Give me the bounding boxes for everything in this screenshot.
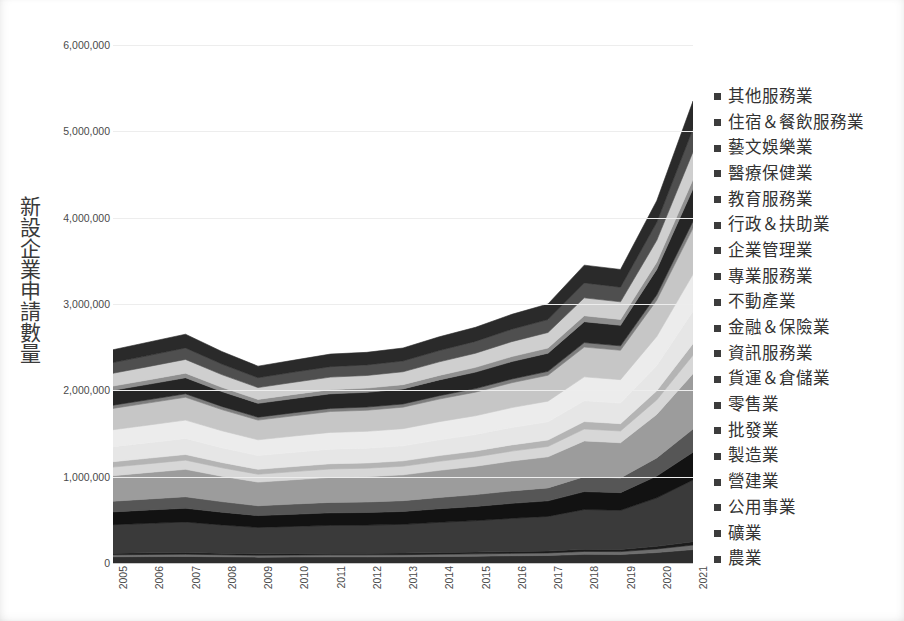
legend-swatch-icon [714, 222, 721, 229]
y-tick-label: 0 [104, 557, 110, 569]
legend-item-label: 零售業 [728, 396, 779, 414]
legend-item-label: 行政＆扶助業 [728, 216, 830, 234]
legend-item-label: 教育服務業 [728, 191, 813, 209]
legend-item[interactable]: 企業管理業 [714, 238, 899, 264]
x-axis-tick-labels: 2005200620072008200920102011201220132014… [113, 566, 693, 616]
x-tick-label: 2007 [190, 566, 202, 589]
legend-swatch-icon [714, 145, 721, 152]
legend-item-label: 醫療保健業 [728, 165, 813, 183]
x-tick-label: 2014 [443, 566, 455, 589]
legend-item[interactable]: 專業服務業 [714, 264, 899, 290]
gridline [113, 218, 693, 219]
legend-item-label: 專業服務業 [728, 268, 813, 286]
gridline [113, 477, 693, 478]
legend-swatch-icon [714, 273, 721, 280]
y-tick-label: 2,000,000 [63, 384, 110, 396]
legend-item[interactable]: 批發業 [714, 418, 899, 444]
x-tick-label: 2018 [588, 566, 600, 589]
y-axis-title: 新設企業申請數量 [6, 196, 40, 364]
legend-item-label: 營建業 [728, 473, 779, 491]
legend-item[interactable]: 不動產業 [714, 290, 899, 316]
x-tick-label: 2011 [335, 566, 347, 589]
legend-item[interactable]: 營建業 [714, 469, 899, 495]
stacked-area-chart: 新設企業申請數量 01,000,0002,000,0003,000,0004,0… [0, 0, 904, 621]
legend-item[interactable]: 礦業 [714, 521, 899, 547]
x-tick-label: 2012 [371, 566, 383, 589]
legend-swatch-icon [714, 196, 721, 203]
legend-item-label: 公用事業 [728, 499, 796, 517]
legend-item-label: 礦業 [728, 525, 762, 543]
x-tick-label: 2017 [552, 566, 564, 589]
legend-swatch-icon [714, 350, 721, 357]
legend-item[interactable]: 行政＆扶助業 [714, 212, 899, 238]
legend-item[interactable]: 公用事業 [714, 495, 899, 521]
legend-item[interactable]: 教育服務業 [714, 187, 899, 213]
gridline [113, 304, 693, 305]
legend-swatch-icon [714, 376, 721, 383]
y-tick-label: 5,000,000 [63, 125, 110, 137]
x-tick-label: 2006 [153, 566, 165, 589]
legend-item[interactable]: 藝文娛樂業 [714, 135, 899, 161]
legend-swatch-icon [714, 504, 721, 511]
legend-swatch-icon [714, 427, 721, 434]
legend-swatch-icon [714, 556, 721, 563]
legend-item[interactable]: 製造業 [714, 444, 899, 470]
gridline [113, 563, 693, 564]
legend-item-label: 貨運＆倉儲業 [728, 370, 830, 388]
legend-swatch-icon [714, 402, 721, 409]
x-tick-label: 2019 [625, 566, 637, 589]
x-tick-label: 2009 [262, 566, 274, 589]
legend-swatch-icon [714, 530, 721, 537]
x-tick-label: 2013 [407, 566, 419, 589]
legend-item-label: 金融＆保險業 [728, 319, 830, 337]
legend-item[interactable]: 其他服務業 [714, 84, 899, 110]
legend-swatch-icon [714, 299, 721, 306]
legend-item-label: 批發業 [728, 422, 779, 440]
legend-swatch-icon [714, 325, 721, 332]
legend-swatch-icon [714, 247, 721, 254]
legend-item[interactable]: 醫療保健業 [714, 161, 899, 187]
x-tick-label: 2010 [298, 566, 310, 589]
legend-item-label: 製造業 [728, 447, 779, 465]
x-tick-label: 2021 [697, 566, 709, 589]
plot-area [113, 45, 693, 563]
legend-swatch-icon [714, 453, 721, 460]
legend-item[interactable]: 住宿＆餐飲服務業 [714, 110, 899, 136]
x-tick-label: 2008 [226, 566, 238, 589]
gridline [113, 45, 693, 46]
legend-item-label: 企業管理業 [728, 242, 813, 260]
y-tick-label: 1,000,000 [63, 471, 110, 483]
legend-item[interactable]: 農業 [714, 546, 899, 572]
y-axis-tick-labels: 01,000,0002,000,0003,000,0004,000,0005,0… [40, 45, 110, 563]
y-tick-label: 4,000,000 [63, 212, 110, 224]
x-tick-label: 2020 [661, 566, 673, 589]
x-tick-label: 2015 [480, 566, 492, 589]
legend-item-label: 住宿＆餐飲服務業 [728, 114, 864, 132]
chart-legend: 其他服務業住宿＆餐飲服務業藝文娛樂業醫療保健業教育服務業行政＆扶助業企業管理業專… [714, 84, 899, 572]
legend-item[interactable]: 貨運＆倉儲業 [714, 367, 899, 393]
x-tick-label: 2005 [117, 566, 129, 589]
legend-item-label: 其他服務業 [728, 88, 813, 106]
y-tick-label: 6,000,000 [63, 39, 110, 51]
legend-item-label: 農業 [728, 550, 762, 568]
gridline [113, 131, 693, 132]
legend-item-label: 藝文娛樂業 [728, 139, 813, 157]
x-tick-label: 2016 [516, 566, 528, 589]
legend-item-label: 資訊服務業 [728, 345, 813, 363]
legend-swatch-icon [714, 93, 721, 100]
legend-swatch-icon [714, 119, 721, 126]
gridline [113, 390, 693, 391]
legend-item[interactable]: 資訊服務業 [714, 341, 899, 367]
legend-swatch-icon [714, 479, 721, 486]
y-tick-label: 3,000,000 [63, 298, 110, 310]
legend-item-label: 不動產業 [728, 293, 796, 311]
legend-item[interactable]: 零售業 [714, 392, 899, 418]
legend-item[interactable]: 金融＆保險業 [714, 315, 899, 341]
legend-swatch-icon [714, 170, 721, 177]
